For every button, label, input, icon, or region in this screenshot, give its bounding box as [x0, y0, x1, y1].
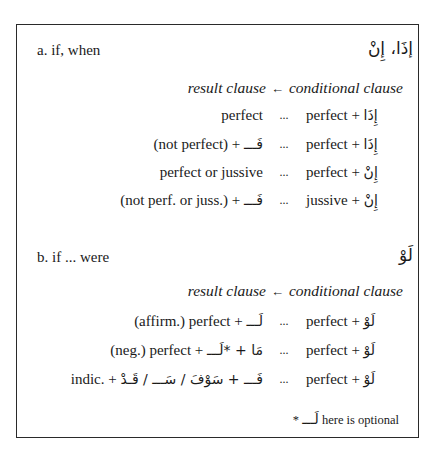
section-a-row: perfect or jussive ... perfect + إِنْ: [0, 163, 443, 183]
footnote-text: here is optional: [319, 413, 399, 427]
conditional-clause-heading: conditional clause: [289, 79, 403, 96]
result-clause: (neg.) perfect + مَا + *لَـــ: [110, 341, 263, 359]
section-b-label: b. if ... were: [37, 248, 109, 266]
conditional-clause: perfect + إِنْ: [306, 163, 378, 181]
conditional-clause-heading: conditional clause: [289, 282, 403, 299]
separator: ...: [276, 370, 292, 388]
section-b-row: (neg.) perfect + مَا + *لَـــ ... perfec…: [0, 341, 443, 361]
separator: ...: [276, 341, 292, 359]
section-b-arabic-title: لَوْ: [399, 246, 413, 264]
separator: ...: [276, 312, 292, 330]
conditional-clause: perfect + إِذَا: [306, 135, 378, 153]
conditional-clause: perfect + لَوْ: [306, 312, 375, 330]
result-clause-heading: result clause: [188, 79, 266, 96]
section-a-row: (not perf. or juss.) + فَـــ ... jussive…: [0, 191, 443, 211]
section-a-row: perfect ... perfect + إِذَا: [0, 106, 443, 126]
left-arrow-icon: ←: [271, 284, 284, 299]
result-clause: perfect: [221, 106, 263, 124]
section-a-label: a. if, when: [37, 41, 100, 59]
conditional-clause: perfect + لَوْ: [306, 341, 375, 359]
result-clause: (not perf. or juss.) + فَـــ: [120, 191, 263, 209]
section-a-row: (not perfect) + فَـــ ... perfect + إِذَ…: [0, 135, 443, 155]
separator: ...: [276, 191, 292, 209]
separator: ...: [276, 163, 292, 181]
conditional-clause: perfect + لَوْ: [306, 370, 375, 388]
section-a-arabic-title: إذَا، إِنْ: [368, 39, 413, 57]
section-b-row: (affirm.) perfect + لَـــ ... perfect + …: [0, 312, 443, 332]
conditional-clause: perfect + إِذَا: [306, 106, 378, 124]
section-b-clause-header: result clause←conditional clause: [188, 282, 403, 301]
result-clause: (not perfect) + فَـــ: [154, 135, 264, 153]
separator: ...: [276, 135, 292, 153]
result-clause-heading: result clause: [188, 282, 266, 299]
section-b-row: indic. + فَـــ + سَوْفَ / سَـــ / قَـدْ …: [0, 370, 443, 390]
result-clause: perfect or jussive: [160, 163, 263, 181]
footnote-arabic: لَـــ: [302, 411, 319, 427]
conditional-clause: jussive + إِنْ: [306, 191, 378, 209]
separator: ...: [276, 106, 292, 124]
result-clause: (affirm.) perfect + لَـــ: [134, 312, 263, 330]
section-a-clause-header: result clause←conditional clause: [188, 79, 403, 98]
left-arrow-icon: ←: [271, 81, 284, 96]
footnote: * لَـــ here is optional: [293, 410, 399, 429]
footnote-marker: *: [293, 413, 299, 427]
result-clause: indic. + فَـــ + سَوْفَ / سَـــ / قَـدْ: [71, 370, 263, 388]
